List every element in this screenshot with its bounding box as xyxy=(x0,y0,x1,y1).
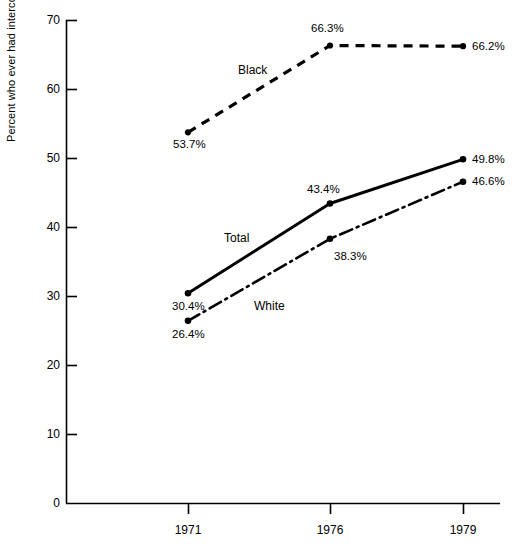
data-label-white-1971: 26.4% xyxy=(172,328,205,340)
data-label-total-1971: 30.4% xyxy=(172,300,205,312)
data-label-black-1976: 66.3% xyxy=(311,22,344,34)
series-label-black: Black xyxy=(238,64,267,76)
series-label-white: White xyxy=(254,300,285,312)
data-label-black-1979: 66.2% xyxy=(472,40,505,52)
plot-area xyxy=(0,0,522,547)
line-chart: Percent who ever had intercourse before … xyxy=(0,0,522,547)
data-label-total-1979: 49.8% xyxy=(472,153,505,165)
series-total xyxy=(185,156,467,297)
data-label-black-1971: 53.7% xyxy=(173,138,206,150)
series-label-total: Total xyxy=(224,232,249,244)
series-black xyxy=(185,42,466,135)
data-label-total-1976: 43.4% xyxy=(307,183,340,195)
data-label-white-1979: 46.6% xyxy=(472,175,505,187)
data-label-white-1976: 38.3% xyxy=(334,250,367,262)
series-white xyxy=(185,178,467,324)
